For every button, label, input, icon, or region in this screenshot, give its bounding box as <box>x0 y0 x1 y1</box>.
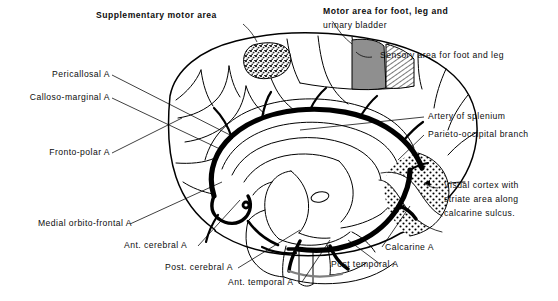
region-supplementary-motor <box>244 43 291 79</box>
artery-post-temporal <box>289 271 342 276</box>
label-calloso-marginal: Calloso-marginal A <box>0 92 110 104</box>
artery-medial-orbito-frontal <box>206 215 218 242</box>
label-ant-cerebral: Ant. cerebral A <box>124 240 187 252</box>
label-calcarine: Calcarine A <box>385 242 434 254</box>
label-parieto-occipital-branch: Parieto-occipital branch <box>428 129 529 141</box>
label-ant-temporal: Ant. temporal A <box>228 277 294 289</box>
leader-pericallosal <box>112 75 232 136</box>
label-visual-cortex-line1: Visual cortex with <box>444 180 519 192</box>
leader-medial-orbito-frontal <box>130 182 222 224</box>
label-post-temporal: Post temporal A <box>331 259 398 271</box>
label-motor-area-line1: Motor area for foot, leg and <box>323 6 448 18</box>
label-motor-area-line2: urinary bladder <box>323 20 387 32</box>
label-sensory-area: Sensory area for foot and leg <box>380 50 504 62</box>
label-medial-orbito-frontal: Medial orbito-frontal A <box>38 218 132 230</box>
label-post-cerebral: Post. cerebral A <box>165 262 233 274</box>
region-motor-foot-leg <box>352 39 386 89</box>
label-fronto-polar: Fronto-polar A <box>0 147 110 159</box>
brain-artery-diagram: Supplementary motor area Motor area for … <box>0 0 558 301</box>
label-visual-cortex-line2: striate area along <box>444 194 519 206</box>
label-visual-cortex-line3: calcarine sulcus. <box>444 208 515 220</box>
label-artery-of-splenium: Artery of splenium <box>428 111 505 123</box>
leader-fronto-polar <box>112 118 182 153</box>
label-supplementary-motor-area: Supplementary motor area <box>96 10 217 22</box>
leader-calloso-marginal <box>112 98 222 150</box>
label-pericallosal: Pericallosal A <box>0 69 110 81</box>
